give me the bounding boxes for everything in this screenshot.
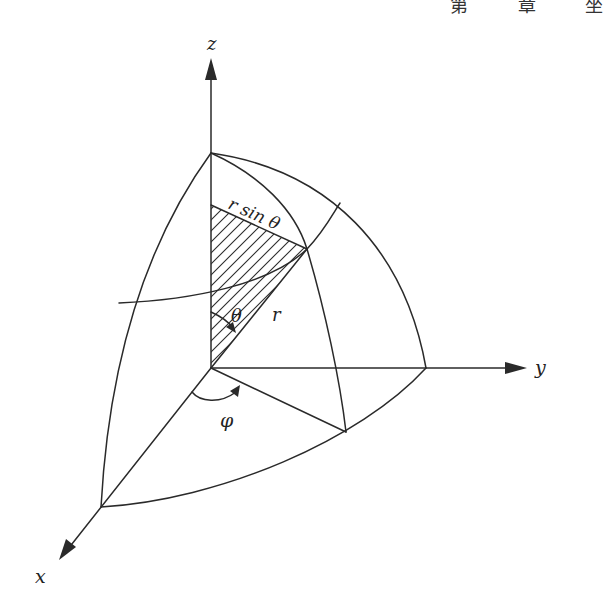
hatch-line [0, 200, 143, 380]
hatch-line [216, 200, 396, 380]
hatch-line [0, 200, 22, 380]
hatch-line [40, 200, 220, 380]
hatch-line [0, 200, 132, 380]
arc-xy-boundary [101, 368, 426, 507]
hatch-line [227, 200, 407, 380]
hatch-line [0, 200, 176, 380]
latitude-arc [119, 203, 340, 303]
meridian-arc [211, 153, 346, 432]
z-axis-label: z [206, 33, 217, 54]
hatch-line [7, 200, 187, 380]
hatch-line [0, 200, 66, 380]
hatch-line [161, 200, 341, 380]
hatch-line [260, 200, 440, 380]
hatch-line [282, 200, 462, 380]
hatch-line [84, 200, 264, 380]
hatch-line [0, 200, 55, 380]
hatch-line [0, 200, 154, 380]
z-axis-arrowhead [205, 58, 217, 80]
phi-angle-arc [192, 392, 236, 400]
y-axis-arrowhead [505, 362, 527, 374]
r-label: r [272, 304, 282, 325]
hatch-line [29, 200, 209, 380]
hatch-line [0, 200, 110, 380]
hatch-line [0, 200, 121, 380]
y-axis-label: y [534, 356, 546, 378]
radius-r-line [211, 249, 307, 368]
hatch-line [0, 200, 99, 380]
hatch-line [0, 200, 44, 380]
hatch-line [150, 200, 330, 380]
arc-zx-boundary [101, 153, 211, 507]
hatch-line [0, 200, 33, 380]
hatch-line [205, 200, 385, 380]
arc-zy-boundary [211, 153, 426, 368]
hatch-line [0, 200, 77, 380]
r-sin-theta-label: r sin θ [225, 193, 283, 233]
phi-label: φ [220, 409, 234, 431]
hatched-region [0, 200, 462, 380]
hatch-line [0, 200, 88, 380]
theta-label: θ [231, 305, 242, 326]
hatch-line [0, 200, 11, 380]
hatch-line [73, 200, 253, 380]
hatch-line [62, 200, 242, 380]
x-axis-label: x [35, 565, 46, 587]
hatch-line [18, 200, 198, 380]
x-axis [68, 368, 211, 549]
